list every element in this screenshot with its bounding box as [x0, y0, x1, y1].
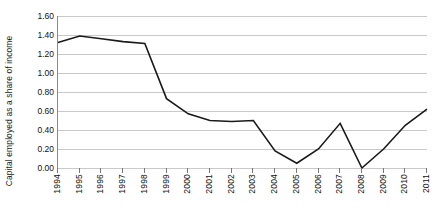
y-tick-label: 1.00 [22, 68, 54, 78]
x-tick-label-wrap: 2011 [420, 174, 432, 220]
x-tick-label: 2007 [334, 174, 344, 194]
x-tick-label-wrap: 2005 [290, 174, 302, 220]
x-tick-label: 2004 [269, 174, 279, 194]
x-tick-label-wrap: 1994 [51, 174, 63, 220]
x-tick-mark [361, 168, 362, 173]
x-tick-label-wrap: 2001 [203, 174, 215, 220]
y-tick-label: 0.80 [22, 87, 54, 97]
x-axis-tick-labels: 1994199519961997199819992000200120022003… [57, 174, 426, 222]
x-tick-mark [231, 168, 232, 173]
x-tick-label: 2008 [356, 174, 366, 194]
line-chart: Capital employed as a share of income 0.… [0, 0, 440, 222]
x-tick-label: 2002 [226, 174, 236, 194]
x-tick-mark [57, 168, 58, 173]
x-tick-mark [144, 168, 145, 173]
x-tick-mark [404, 168, 405, 173]
x-tick-label: 1999 [161, 174, 171, 194]
y-tick-label: 0.40 [22, 125, 54, 135]
x-tick-label-wrap: 2003 [246, 174, 258, 220]
x-tick-label: 1998 [139, 174, 149, 194]
series-line [58, 16, 427, 168]
y-tick-label: 0.00 [22, 163, 54, 173]
x-tick-label: 2000 [182, 174, 192, 194]
x-tick-mark [339, 168, 340, 173]
y-tick-label: 0.20 [22, 144, 54, 154]
plot-area [57, 16, 427, 169]
x-tick-label-wrap: 1998 [138, 174, 150, 220]
x-tick-mark [209, 168, 210, 173]
x-tick-label-wrap: 2007 [333, 174, 345, 220]
x-tick-label: 2005 [291, 174, 301, 194]
x-tick-label: 1996 [95, 174, 105, 194]
x-tick-mark [100, 168, 101, 173]
x-tick-label-wrap: 2002 [225, 174, 237, 220]
x-tick-mark [252, 168, 253, 173]
series-polyline [58, 36, 427, 168]
x-tick-label-wrap: 2009 [377, 174, 389, 220]
x-tick-label-wrap: 1997 [116, 174, 128, 220]
x-tick-mark [274, 168, 275, 173]
x-tick-label: 2003 [247, 174, 257, 194]
x-tick-label: 2011 [421, 174, 431, 193]
x-tick-mark [122, 168, 123, 173]
x-tick-mark [383, 168, 384, 173]
x-tick-label-wrap: 2004 [268, 174, 280, 220]
x-tick-label: 1997 [117, 174, 127, 194]
x-tick-label-wrap: 1999 [160, 174, 172, 220]
x-tick-label-wrap: 2008 [355, 174, 367, 220]
y-tick-label: 1.40 [22, 30, 54, 40]
x-tick-mark [79, 168, 80, 173]
y-tick-label: 1.20 [22, 49, 54, 59]
x-tick-mark [318, 168, 319, 173]
x-tick-label-wrap: 2010 [398, 174, 410, 220]
x-tick-label: 2001 [204, 174, 214, 194]
y-tick-label: 0.60 [22, 106, 54, 116]
x-tick-label-wrap: 2006 [312, 174, 324, 220]
x-tick-mark [426, 168, 427, 173]
x-tick-mark [166, 168, 167, 173]
x-tick-label: 2010 [399, 174, 409, 194]
y-axis-title: Capital employed as a share of income [0, 0, 18, 222]
x-tick-label-wrap: 1996 [94, 174, 106, 220]
x-tick-mark [296, 168, 297, 173]
x-tick-label: 2009 [378, 174, 388, 194]
y-axis-tick-labels: 0.000.200.400.600.801.001.201.401.60 [22, 0, 54, 222]
x-tick-mark [187, 168, 188, 173]
y-tick-label: 1.60 [22, 11, 54, 21]
x-tick-label: 2006 [313, 174, 323, 194]
x-tick-label: 1995 [74, 174, 84, 194]
x-tick-label-wrap: 1995 [73, 174, 85, 220]
x-tick-label: 1994 [52, 174, 62, 194]
x-tick-label-wrap: 2000 [181, 174, 193, 220]
